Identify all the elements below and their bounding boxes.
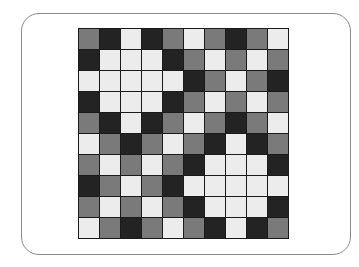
board-cell[interactable] — [247, 92, 267, 112]
board-cell[interactable] — [205, 176, 225, 196]
board-cell[interactable] — [121, 71, 141, 91]
board-cell[interactable] — [184, 155, 204, 175]
board-cell[interactable] — [268, 50, 288, 70]
board-cell[interactable] — [121, 197, 141, 217]
board-cell[interactable] — [226, 155, 246, 175]
board-cell[interactable] — [184, 50, 204, 70]
board-cell[interactable] — [205, 71, 225, 91]
board-cell[interactable] — [226, 71, 246, 91]
board-cell[interactable] — [79, 218, 99, 238]
board-cell[interactable] — [79, 50, 99, 70]
board-cell[interactable] — [100, 113, 120, 133]
board-cell[interactable] — [142, 218, 162, 238]
board-cell[interactable] — [205, 29, 225, 49]
board-cell[interactable] — [226, 134, 246, 154]
board-cell[interactable] — [121, 50, 141, 70]
board-cell[interactable] — [163, 92, 183, 112]
board-cell[interactable] — [268, 197, 288, 217]
board-cell[interactable] — [226, 92, 246, 112]
board-cell[interactable] — [163, 176, 183, 196]
board-cell[interactable] — [247, 50, 267, 70]
board-cell[interactable] — [163, 29, 183, 49]
board-cell[interactable] — [121, 155, 141, 175]
board-cell[interactable] — [163, 218, 183, 238]
board-cell[interactable] — [184, 113, 204, 133]
board-cell[interactable] — [163, 134, 183, 154]
board-cell[interactable] — [142, 176, 162, 196]
board-cell[interactable] — [247, 155, 267, 175]
board-cell[interactable] — [121, 113, 141, 133]
board-cell[interactable] — [247, 197, 267, 217]
board-cell[interactable] — [163, 71, 183, 91]
board-cell[interactable] — [184, 92, 204, 112]
board-cell[interactable] — [247, 176, 267, 196]
board-cell[interactable] — [142, 197, 162, 217]
board-cell[interactable] — [100, 197, 120, 217]
board-cell[interactable] — [247, 134, 267, 154]
board-cell[interactable] — [184, 176, 204, 196]
board-cell[interactable] — [100, 71, 120, 91]
board-cell[interactable] — [79, 134, 99, 154]
board-cell[interactable] — [205, 197, 225, 217]
board-cell[interactable] — [184, 134, 204, 154]
board-cell[interactable] — [163, 113, 183, 133]
board-cell[interactable] — [142, 50, 162, 70]
board-cell[interactable] — [163, 50, 183, 70]
board-cell[interactable] — [100, 50, 120, 70]
board-cell[interactable] — [205, 134, 225, 154]
board-cell[interactable] — [100, 92, 120, 112]
board-cell[interactable] — [121, 92, 141, 112]
board-cell[interactable] — [268, 92, 288, 112]
board-cell[interactable] — [205, 113, 225, 133]
board-cell[interactable] — [268, 218, 288, 238]
board-cell[interactable] — [268, 134, 288, 154]
board-cell[interactable] — [79, 176, 99, 196]
board-cell[interactable] — [100, 155, 120, 175]
board-cell[interactable] — [205, 155, 225, 175]
board-cell[interactable] — [121, 29, 141, 49]
board-cell[interactable] — [226, 176, 246, 196]
board-cell[interactable] — [142, 155, 162, 175]
board-cell[interactable] — [100, 29, 120, 49]
board-cell[interactable] — [142, 113, 162, 133]
board-cell[interactable] — [121, 218, 141, 238]
board-cell[interactable] — [247, 218, 267, 238]
board-cell[interactable] — [184, 71, 204, 91]
board-cell[interactable] — [79, 29, 99, 49]
board-cell[interactable] — [247, 113, 267, 133]
board-cell[interactable] — [100, 176, 120, 196]
board-cell[interactable] — [268, 71, 288, 91]
board-cell[interactable] — [226, 113, 246, 133]
board-cell[interactable] — [268, 29, 288, 49]
board-cell[interactable] — [226, 218, 246, 238]
board-cell[interactable] — [100, 218, 120, 238]
board-cell[interactable] — [142, 134, 162, 154]
board-cell[interactable] — [184, 197, 204, 217]
board-cell[interactable] — [163, 155, 183, 175]
board-cell[interactable] — [79, 197, 99, 217]
board-cell[interactable] — [142, 92, 162, 112]
board-cell[interactable] — [79, 92, 99, 112]
board-cell[interactable] — [184, 218, 204, 238]
board-cell[interactable] — [205, 218, 225, 238]
board-cell[interactable] — [79, 71, 99, 91]
board-cell[interactable] — [268, 113, 288, 133]
board-cell[interactable] — [226, 197, 246, 217]
board-cell[interactable] — [247, 71, 267, 91]
board-cell[interactable] — [226, 50, 246, 70]
board-cell[interactable] — [247, 29, 267, 49]
board-cell[interactable] — [226, 29, 246, 49]
board-cell[interactable] — [100, 134, 120, 154]
board-cell[interactable] — [79, 113, 99, 133]
board-cell[interactable] — [121, 176, 141, 196]
board-cell[interactable] — [142, 71, 162, 91]
board-cell[interactable] — [79, 155, 99, 175]
board-cell[interactable] — [142, 29, 162, 49]
board-cell[interactable] — [205, 92, 225, 112]
board-cell[interactable] — [184, 29, 204, 49]
board-cell[interactable] — [268, 176, 288, 196]
board-cell[interactable] — [268, 155, 288, 175]
board-cell[interactable] — [121, 134, 141, 154]
board-cell[interactable] — [205, 50, 225, 70]
board-cell[interactable] — [163, 197, 183, 217]
